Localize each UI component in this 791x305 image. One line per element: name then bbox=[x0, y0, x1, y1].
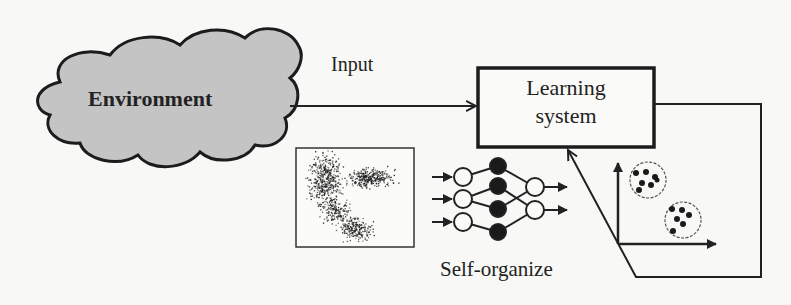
learning-system-label-line1: Learning bbox=[478, 74, 654, 102]
environment-label: Environment bbox=[88, 86, 212, 112]
self-organize-label: Self-organize bbox=[440, 257, 553, 282]
diagram-svg bbox=[0, 0, 791, 305]
data-scatter-plot bbox=[296, 148, 414, 247]
learning-system-label-line2: system bbox=[478, 102, 654, 130]
input-label: Input bbox=[331, 53, 373, 76]
learning-system-label: Learning system bbox=[478, 74, 654, 130]
diagram-canvas: Environment Input Learning system Self-o… bbox=[0, 0, 791, 305]
neural-network-icon bbox=[432, 158, 567, 240]
cluster-plot bbox=[618, 162, 716, 244]
